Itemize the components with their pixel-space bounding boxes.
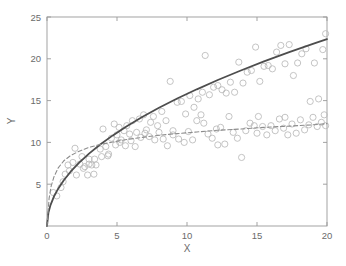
x-tick-label: 15	[252, 230, 263, 241]
y-axis-title: Y	[6, 117, 17, 124]
y-tick-label: 15	[30, 95, 41, 106]
x-tick-label: 20	[322, 230, 333, 241]
scatter-plot-chart: 05101520510152025 X Y	[0, 0, 346, 266]
x-axis-title: X	[184, 243, 191, 254]
x-tick-label: 5	[114, 230, 119, 241]
y-tick-label: 20	[30, 53, 41, 64]
y-tick-label: 10	[30, 137, 41, 148]
y-tick-label: 25	[30, 12, 41, 23]
x-tick-label: 10	[182, 230, 193, 241]
x-tick-label: 0	[44, 230, 49, 241]
figure-panel: 05101520510152025 X Y	[0, 0, 346, 266]
y-tick-label: 5	[36, 179, 41, 190]
